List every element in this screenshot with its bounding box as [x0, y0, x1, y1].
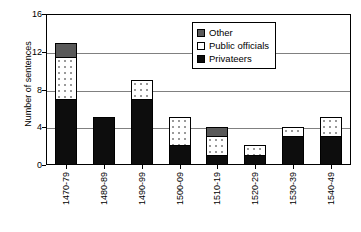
y-axis-title: Number of sentences: [23, 9, 33, 159]
y-tick-label-16: 16: [0, 10, 42, 19]
bar-segment-public-officials: [169, 117, 191, 145]
legend-label-privateers: Privateers: [209, 53, 252, 64]
x-axis-label: 1510-19: [212, 172, 222, 205]
bar-segment-privateers: [244, 155, 266, 164]
bar-segment-privateers: [55, 99, 77, 164]
stacked-bar[interactable]: [282, 127, 304, 164]
x-axis-label: 1470-79: [61, 172, 71, 205]
legend-label-other: Other: [209, 27, 233, 38]
legend-label-public-officials: Public officials: [209, 40, 269, 51]
bar-segment-public-officials: [320, 117, 342, 136]
bar-segment-other: [206, 127, 228, 136]
y-tick-label-8: 8: [0, 86, 42, 95]
stacked-bar[interactable]: [244, 145, 266, 164]
x-tick-mark: [66, 165, 67, 169]
bar-segment-privateers: [169, 145, 191, 164]
legend-swatch-privateers-icon: [197, 55, 205, 63]
x-axis-label: 1490-99: [137, 172, 147, 205]
bar-segment-public-officials: [131, 80, 153, 99]
stacked-bar-chart: Number of sentences 16 12 8 4 0 1470-791…: [0, 0, 361, 232]
x-tick-mark: [331, 165, 332, 169]
bar-segment-public-officials: [55, 57, 77, 99]
legend-item-privateers: Privateers: [197, 52, 269, 65]
bar-segment-privateers: [131, 99, 153, 164]
x-label-slot: 1510-19: [199, 170, 237, 230]
x-tick-mark: [180, 165, 181, 169]
x-axis-label: 1540-49: [326, 172, 336, 205]
stacked-bar[interactable]: [93, 117, 115, 164]
x-tick-mark: [293, 165, 294, 169]
bar-group: [123, 15, 161, 164]
bar-group: [274, 15, 312, 164]
x-axis-label: 1480-89: [99, 172, 109, 205]
bar-segment-public-officials: [206, 136, 228, 155]
legend: Other Public officials Privateers: [192, 22, 276, 69]
y-tick-mark-4: [42, 127, 46, 128]
stacked-bar[interactable]: [55, 43, 77, 164]
x-label-slot: 1490-99: [123, 170, 161, 230]
y-tick-label-12: 12: [0, 48, 42, 57]
stacked-bar[interactable]: [131, 80, 153, 164]
bar-group: [312, 15, 350, 164]
x-tick-mark: [142, 165, 143, 169]
bar-segment-privateers: [206, 155, 228, 164]
x-tick-mark: [255, 165, 256, 169]
x-axis-label: 1520-29: [250, 172, 260, 205]
x-axis-labels: 1470-791480-891490-991500-091510-191520-…: [47, 170, 350, 230]
x-label-slot: 1470-79: [47, 170, 85, 230]
bar-segment-public-officials: [282, 127, 304, 136]
x-label-slot: 1530-39: [274, 170, 312, 230]
legend-swatch-public-officials-icon: [197, 42, 205, 50]
x-label-slot: 1500-09: [161, 170, 199, 230]
stacked-bar[interactable]: [206, 127, 228, 164]
y-tick-mark-8: [42, 90, 46, 91]
legend-swatch-other-icon: [197, 29, 205, 37]
stacked-bar[interactable]: [169, 117, 191, 164]
legend-item-other: Other: [197, 26, 269, 39]
x-axis-label: 1530-39: [288, 172, 298, 205]
bar-segment-other: [55, 43, 77, 57]
bar-group: [85, 15, 123, 164]
y-tick-mark-16: [42, 14, 46, 15]
y-tick-label-4: 4: [0, 123, 42, 132]
y-tick-label-0: 0: [0, 161, 42, 170]
bar-segment-privateers: [320, 136, 342, 164]
stacked-bar[interactable]: [320, 117, 342, 164]
bar-segment-privateers: [93, 117, 115, 164]
y-tick-mark-12: [42, 52, 46, 53]
x-label-slot: 1480-89: [85, 170, 123, 230]
x-tick-mark: [217, 165, 218, 169]
x-label-slot: 1520-29: [236, 170, 274, 230]
x-label-slot: 1540-49: [312, 170, 350, 230]
bar-group: [47, 15, 85, 164]
y-tick-mark-0: [42, 165, 46, 166]
bar-segment-privateers: [282, 136, 304, 164]
legend-item-public-officials: Public officials: [197, 39, 269, 52]
bar-segment-public-officials: [244, 145, 266, 154]
x-tick-mark: [104, 165, 105, 169]
x-axis-label: 1500-09: [175, 172, 185, 205]
